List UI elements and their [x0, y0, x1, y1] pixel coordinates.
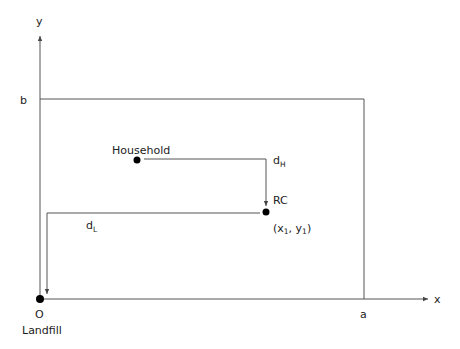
y-extent-label-b: b	[20, 94, 27, 107]
rc-coord-close: )	[307, 222, 311, 235]
y-axis-label: y	[36, 15, 43, 28]
dH-label: dH	[273, 154, 286, 169]
x-axis-label: x	[434, 293, 441, 306]
household-to-rc-path	[144, 159, 266, 206]
landfill-point	[36, 295, 44, 303]
rc-coord-mid: , y	[289, 222, 303, 235]
rc-point	[263, 209, 270, 216]
dL-label: dL	[86, 219, 98, 234]
dH-main: d	[273, 154, 280, 167]
origin-label: O	[35, 308, 44, 321]
dH-subscript: H	[280, 160, 286, 169]
rc-label: RC	[273, 194, 288, 207]
rc-coordinates: (x1, y1)	[273, 222, 311, 236]
x-extent-label-a: a	[360, 308, 367, 321]
household-label: Household	[112, 144, 170, 157]
rc-to-landfill-path	[47, 213, 260, 294]
dL-main: d	[86, 219, 93, 232]
household-point	[134, 157, 141, 164]
diagram-canvas: y x b a O Landfill Household dH RC (x1, …	[0, 0, 460, 349]
landfill-label: Landfill	[22, 324, 62, 337]
dL-subscript: L	[93, 225, 98, 234]
rc-coord-open: (x	[273, 222, 284, 235]
